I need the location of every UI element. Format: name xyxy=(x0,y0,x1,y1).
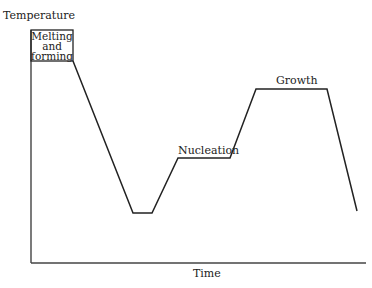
melting-forming-label: Melting and forming xyxy=(31,31,73,61)
nucleation-label: Nucleation xyxy=(178,145,239,157)
x-axis-label: Time xyxy=(193,268,221,280)
growth-label: Growth xyxy=(276,75,318,87)
y-axis-label: Temperature xyxy=(3,10,75,22)
box-line-3: forming xyxy=(31,51,73,61)
